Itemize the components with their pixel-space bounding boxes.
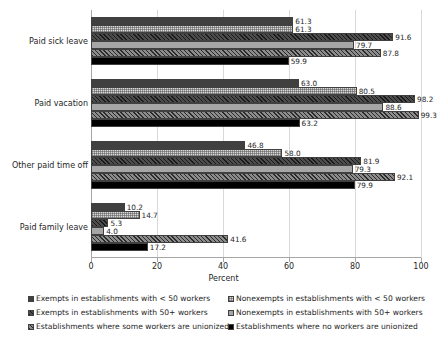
bar-row: 17.2 [91,243,421,251]
legend-label: Establishments where no workers are unio… [236,323,418,331]
bar[interactable] [91,79,299,87]
legend-swatch-icon [28,324,34,330]
bar-value-label: 79.9 [355,181,373,190]
bar[interactable] [91,203,125,211]
legend-label: Exempts in establishments with 50+ worke… [36,309,208,317]
bar[interactable] [91,227,104,235]
legend-item[interactable]: Exempts in establishments with 50+ worke… [28,309,228,317]
bar[interactable] [91,87,357,95]
bar-group: 63.080.598.288.699.363.2 [91,72,421,134]
bar[interactable] [91,173,395,181]
bar-value-label: 17.2 [148,243,166,252]
legend-item[interactable]: Nonexempts in establishments with 50+ wo… [228,309,428,317]
bar[interactable] [91,165,353,173]
plot-area: 61.361.391.679.787.859.963.080.598.288.6… [91,10,421,258]
legend-label: Establishments where some workers are un… [36,323,229,331]
bar-row: 41.6 [91,235,421,243]
bar[interactable] [91,243,148,251]
legend-label: Nonexempts in establishments with 50+ wo… [236,309,423,317]
legend-label: Exempts in establishments with < 50 work… [36,295,210,303]
legend-swatch-icon [28,310,34,316]
bar[interactable] [91,33,393,41]
bar-chart: Paid sick leavePaid vacationOther paid t… [0,0,447,337]
bar-row: 5.3 [91,219,421,227]
bar[interactable] [91,141,245,149]
bar-row: 80.5 [91,87,421,95]
x-tick-label: 0 [88,262,93,271]
bar-row: 61.3 [91,25,421,33]
bar[interactable] [91,181,355,189]
legend-swatch-icon [228,310,234,316]
bar-group: 10.214.75.34.041.617.2 [91,196,421,258]
x-axis-title: Percent [0,274,447,283]
bar-row: 79.7 [91,41,421,49]
x-tick-label: 100 [413,262,428,271]
category-label: Paid vacation [0,99,88,108]
legend-item[interactable]: Establishments where no workers are unio… [228,323,428,331]
legend-item[interactable]: Nonexempts in establishments with < 50 w… [228,295,428,303]
bar[interactable] [91,25,293,33]
x-tick-label: 20 [152,262,162,271]
category-label: Paid sick leave [0,37,88,46]
bar-row: 79.9 [91,181,421,189]
legend-label: Nonexempts in establishments with < 50 w… [236,295,425,303]
bar-row: 87.8 [91,49,421,57]
bar[interactable] [91,41,354,49]
bar-value-label: 63.2 [300,119,318,128]
legend-swatch-icon [28,296,34,302]
bar-group: 61.361.391.679.787.859.9 [91,10,421,72]
legend-swatch-icon [228,324,234,330]
bar[interactable] [91,57,289,65]
category-label: Paid family leave [0,223,88,232]
bar-row: 63.2 [91,119,421,127]
x-tick-label: 80 [350,262,360,271]
chart-legend: Exempts in establishments with < 50 work… [28,292,428,334]
gridline [421,10,422,258]
bar[interactable] [91,95,415,103]
bar-row: 98.2 [91,95,421,103]
bar[interactable] [91,103,383,111]
bar-row: 99.3 [91,111,421,119]
bar-row: 81.9 [91,157,421,165]
bar-row: 14.7 [91,211,421,219]
bar[interactable] [91,49,381,57]
x-tick-label: 60 [284,262,294,271]
bar[interactable] [91,149,282,157]
legend-item[interactable]: Exempts in establishments with < 50 work… [28,295,228,303]
bar-group: 46.858.081.979.392.179.9 [91,134,421,196]
bar[interactable] [91,111,419,119]
bar[interactable] [91,157,361,165]
category-label: Other paid time off [0,161,88,170]
bar[interactable] [91,119,300,127]
bar-value-label: 99.3 [419,111,437,120]
bar-row: 79.3 [91,165,421,173]
bar-row: 46.8 [91,141,421,149]
bar-row: 88.6 [91,103,421,111]
bar-row: 59.9 [91,57,421,65]
bar-row: 61.3 [91,17,421,25]
bar-value-label: 59.9 [289,57,307,66]
legend-swatch-icon [228,296,234,302]
legend-item[interactable]: Establishments where some workers are un… [28,323,228,331]
x-tick-label: 40 [218,262,228,271]
bar-row: 4.0 [91,227,421,235]
bar[interactable] [91,17,293,25]
